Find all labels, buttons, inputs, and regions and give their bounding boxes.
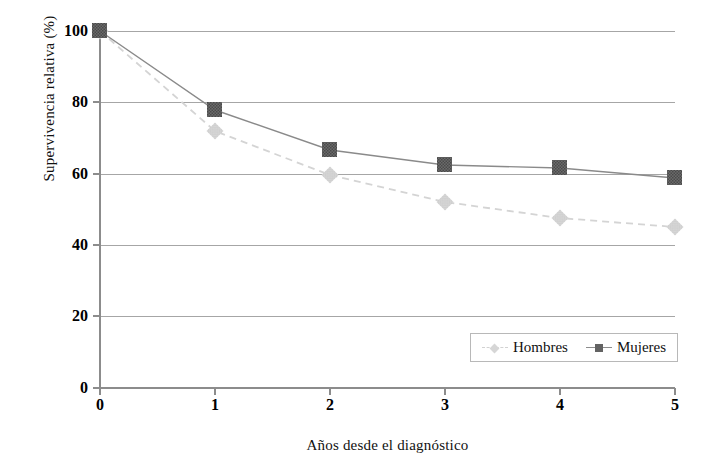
x-axis-ticks xyxy=(100,388,675,395)
series-markers-mujeres xyxy=(92,23,682,185)
legend-label-mujeres: Mujeres xyxy=(617,339,666,356)
x-tick-4: 4 xyxy=(540,396,580,414)
x-tick-5: 5 xyxy=(655,396,695,414)
x-tick-0: 0 xyxy=(80,396,120,414)
marker-hombres-2 xyxy=(322,167,339,184)
legend-label-hombres: Hombres xyxy=(513,339,568,356)
chart-legend: Hombres Mujeres xyxy=(470,333,678,362)
y-axis-ticks xyxy=(93,31,100,388)
series-markers-hombres xyxy=(92,23,684,236)
chart-container: Supervivencia relativa (%) 0 20 40 60 80… xyxy=(0,0,711,476)
marker-hombres-3 xyxy=(437,194,454,211)
legend-item-mujeres: Mujeres xyxy=(586,339,666,356)
x-tick-2: 2 xyxy=(310,396,350,414)
x-axis-label: Años desde el diagnóstico xyxy=(100,437,675,454)
marker-mujeres-3 xyxy=(437,157,452,172)
marker-mujeres-1 xyxy=(207,102,222,117)
series-line-mujeres xyxy=(100,31,675,178)
legend-line-hombres xyxy=(482,347,508,349)
marker-mujeres-0 xyxy=(92,23,107,38)
gridlines xyxy=(100,31,675,316)
x-tick-1: 1 xyxy=(195,396,235,414)
series-line-hombres xyxy=(100,31,675,227)
marker-mujeres-5 xyxy=(667,170,682,185)
marker-hombres-4 xyxy=(552,210,569,227)
legend-line-mujeres xyxy=(586,347,612,349)
marker-hombres-5 xyxy=(667,219,684,236)
square-marker-icon xyxy=(595,344,603,352)
marker-mujeres-2 xyxy=(322,142,337,157)
marker-mujeres-4 xyxy=(552,160,567,175)
x-tick-3: 3 xyxy=(425,396,465,414)
diamond-marker-icon xyxy=(490,343,500,353)
legend-item-hombres: Hombres xyxy=(482,339,568,356)
